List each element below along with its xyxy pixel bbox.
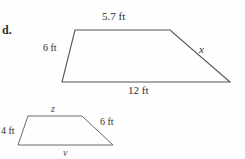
small-trapezoid-top-side-label: z — [51, 104, 55, 114]
large-trapezoid-left-side-label: 6 ft — [43, 43, 57, 53]
part-label: d. — [2, 24, 12, 36]
small-trapezoid-right-side-label: 6 ft — [100, 117, 114, 127]
geometry-figures-svg — [0, 0, 245, 159]
small-trapezoid-bottom-side-label: v — [63, 148, 67, 158]
small-trapezoid-shape — [18, 116, 113, 145]
large-trapezoid-shape — [62, 30, 230, 82]
figure-page: d. 5.7 ft 6 ft x 12 ft z 4 ft 6 ft v — [0, 0, 245, 159]
large-trapezoid-right-side-label: x — [199, 44, 204, 55]
large-trapezoid-bottom-side-label: 12 ft — [128, 85, 148, 96]
small-trapezoid-left-side-label: 4 ft — [1, 126, 15, 136]
large-trapezoid-top-side-label: 5.7 ft — [102, 11, 125, 22]
